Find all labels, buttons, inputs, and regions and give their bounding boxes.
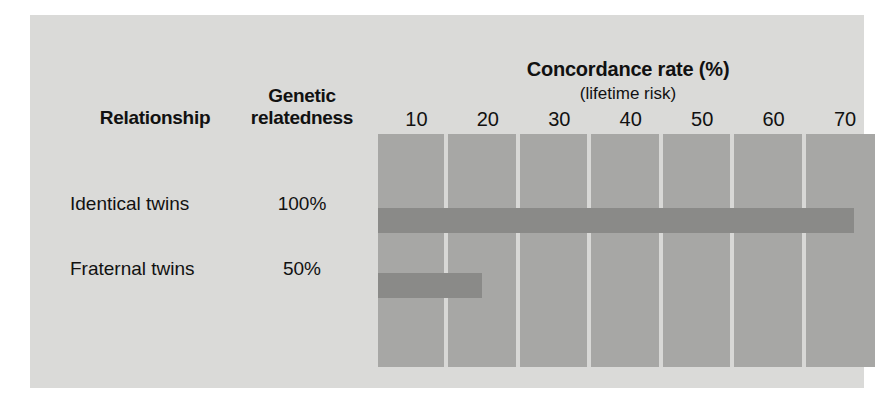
gridline-20 [516, 134, 520, 367]
x-axis-tick-60: 60 [751, 108, 797, 131]
figure-panel: Relationship Genetic relatedness Concord… [30, 15, 864, 388]
row-label-fraternal-twins: Fraternal twins [70, 258, 245, 280]
x-axis-tick-30: 30 [536, 108, 582, 131]
row-label-identical-twins: Identical twins [70, 193, 245, 215]
bar-identical-twins [378, 208, 854, 233]
x-axis-tick-70: 70 [822, 108, 868, 131]
row-relatedness-identical-twins: 100% [238, 193, 366, 215]
plot-area [378, 134, 875, 367]
bar-fraternal-twins [378, 273, 482, 298]
x-axis-tick-40: 40 [608, 108, 654, 131]
chart-title: Concordance rate (%) [378, 58, 878, 81]
column-header-relationship: Relationship [85, 107, 225, 129]
gridline-10 [444, 134, 448, 367]
column-header-genetic-line2: relatedness [238, 107, 366, 129]
gridline-40 [659, 134, 663, 367]
gridline-30 [587, 134, 591, 367]
chart-subtitle: (lifetime risk) [378, 84, 878, 104]
gridline-50 [730, 134, 734, 367]
column-header-genetic-line1: Genetic [238, 85, 366, 107]
row-relatedness-fraternal-twins: 50% [238, 258, 366, 280]
x-axis-tick-10: 10 [393, 108, 439, 131]
gridline-60 [802, 134, 806, 367]
x-axis-tick-50: 50 [679, 108, 725, 131]
column-header-genetic-relatedness: Genetic relatedness [238, 85, 366, 129]
x-axis-tick-20: 20 [465, 108, 511, 131]
